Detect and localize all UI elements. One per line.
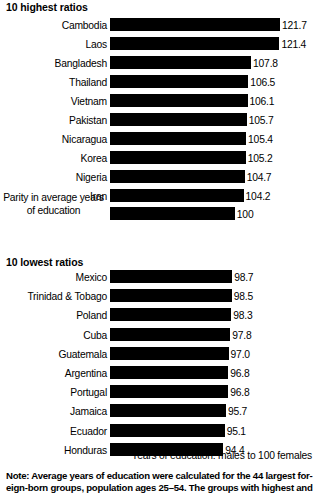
highest-label: Vietnam — [0, 95, 107, 108]
education-ratio-bar-chart: 10 highest ratios Cambodia121.7Laos121.4… — [0, 0, 318, 495]
bar-row: Argentina96.8 — [0, 366, 318, 382]
highest-bar-track — [110, 132, 246, 145]
highest-bar-fill — [110, 151, 246, 164]
highest-bar-fill — [110, 56, 251, 69]
footnote: Note: Average years of education were ca… — [6, 470, 314, 493]
highest-bar-track — [110, 151, 246, 164]
highest-bar-fill — [110, 170, 245, 183]
axis-caption: Years of education: males to 100 females — [0, 450, 312, 461]
highest-label: Cambodia — [0, 19, 107, 32]
highest-bar-fill — [110, 75, 248, 88]
highest-bar-track — [110, 94, 248, 107]
lowest-label: Portugal — [0, 386, 107, 399]
lowest-bar-fill — [110, 308, 231, 321]
highest-bar-fill — [110, 37, 279, 50]
highest-label: Bangladesh — [0, 57, 107, 70]
highest-bar-track — [110, 189, 244, 202]
highest-bar-fill — [110, 113, 247, 126]
highest-bar-track — [110, 75, 248, 88]
bar-row: Mexico98.7 — [0, 270, 318, 286]
parity-row: Parity in average years of education 100 — [0, 203, 318, 233]
highest-bar-track — [110, 113, 247, 126]
bar-row: Pakistan105.7 — [0, 113, 318, 129]
lowest-label: Ecuador — [0, 425, 107, 438]
lowest-bar-fill — [110, 347, 229, 360]
footnote-line-2: eign-born groups, population ages 25–54.… — [6, 482, 314, 494]
lowest-label: Poland — [0, 309, 107, 322]
lowest-bar-value: 98.5 — [234, 290, 253, 303]
bar-row: Korea105.2 — [0, 151, 318, 167]
bar-row: Poland98.3 — [0, 308, 318, 324]
lowest-bar-fill — [110, 424, 225, 437]
bar-row: Nicaragua105.4 — [0, 132, 318, 148]
highest-label: Nicaragua — [0, 133, 107, 146]
bar-row: Laos121.4 — [0, 37, 318, 53]
highest-bar-value: 106.1 — [250, 95, 275, 108]
highest-bar-fill — [110, 18, 280, 31]
bar-row: Nigeria104.7 — [0, 170, 318, 186]
lowest-bar-fill — [110, 404, 226, 417]
parity-bar-track — [110, 207, 235, 220]
footnote-line-1: Note: Average years of education were ca… — [6, 470, 314, 482]
highest-bar-track — [110, 37, 279, 50]
lowest-bar-fill — [110, 289, 232, 302]
parity-label: Parity in average years of education — [0, 192, 107, 217]
highest-bar-value: 121.7 — [282, 19, 307, 32]
highest-bar-track — [110, 56, 251, 69]
bar-row: Thailand106.5 — [0, 75, 318, 91]
highest-label: Nigeria — [0, 171, 107, 184]
lowest-label: Argentina — [0, 367, 107, 380]
lowest-bar-track — [110, 328, 230, 341]
lowest-label: Jamaica — [0, 405, 107, 418]
highest-bar-fill — [110, 94, 248, 107]
bar-row: Jamaica95.7 — [0, 404, 318, 420]
highest-label: Thailand — [0, 76, 107, 89]
bar-row: Cambodia121.7 — [0, 18, 318, 34]
lowest-bar-value: 95.1 — [227, 425, 246, 438]
lowest-bar-value: 98.3 — [233, 309, 252, 322]
highest-bar-track — [110, 18, 280, 31]
lowest-bar-track — [110, 289, 232, 302]
highest-bar-fill — [110, 189, 244, 202]
lowest-bar-value: 95.7 — [228, 405, 247, 418]
lowest-label: Trinidad & Tobago — [0, 290, 107, 303]
lowest-bar-fill — [110, 270, 232, 283]
section-heading-lowest: 10 lowest ratios — [6, 256, 83, 268]
lowest-label: Guatemala — [0, 348, 107, 361]
lowest-bar-value: 97.8 — [232, 329, 251, 342]
highest-label: Korea — [0, 152, 107, 165]
highest-bar-value: 107.8 — [253, 57, 278, 70]
highest-bar-fill — [110, 132, 246, 145]
highest-bar-value: 104.7 — [247, 171, 272, 184]
highest-label: Laos — [0, 38, 107, 51]
lowest-bar-value: 97.0 — [231, 348, 250, 361]
lowest-bar-track — [110, 366, 228, 379]
highest-label: Pakistan — [0, 114, 107, 127]
lowest-label: Cuba — [0, 329, 107, 342]
highest-bar-value: 106.5 — [250, 76, 275, 89]
bar-row: Ecuador95.1 — [0, 424, 318, 440]
lowest-bar-fill — [110, 385, 228, 398]
lowest-bar-fill — [110, 366, 228, 379]
lowest-bar-track — [110, 385, 228, 398]
bar-row: Bangladesh107.8 — [0, 56, 318, 72]
parity-bar-value: 100 — [237, 208, 254, 221]
lowest-bar-fill — [110, 328, 230, 341]
highest-bar-value: 104.2 — [246, 190, 271, 203]
highest-bar-value: 105.4 — [248, 133, 273, 146]
highest-bar-value: 105.2 — [248, 152, 273, 165]
lowest-bar-value: 98.7 — [234, 271, 253, 284]
highest-bar-value: 105.7 — [249, 114, 274, 127]
lowest-bar-value: 96.8 — [230, 386, 249, 399]
lowest-bar-value: 96.8 — [230, 367, 249, 380]
section-heading-highest: 10 highest ratios — [6, 1, 88, 13]
bar-row: Vietnam106.1 — [0, 94, 318, 110]
highest-bar-value: 121.4 — [281, 38, 306, 51]
highest-bar-track — [110, 170, 245, 183]
bar-row: Guatemala97.0 — [0, 347, 318, 363]
parity-bar-fill — [110, 207, 235, 220]
lowest-label: Mexico — [0, 271, 107, 284]
lowest-bar-track — [110, 308, 231, 321]
bar-row: Portugal96.8 — [0, 385, 318, 401]
lowest-bar-track — [110, 404, 226, 417]
